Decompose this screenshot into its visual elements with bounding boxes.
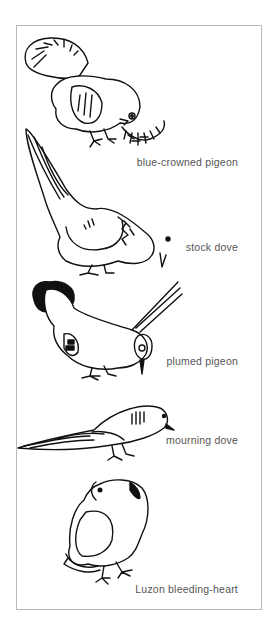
mourning-dove-drawing — [14, 400, 174, 465]
bird-label: mourning dove — [166, 434, 238, 446]
stock-dove-drawing — [22, 125, 172, 275]
plumed-pigeon-drawing — [28, 278, 188, 383]
bird-label: stock dove — [186, 241, 238, 253]
luzon-bleeding-heart-drawing — [60, 478, 160, 588]
bird-label: plumed pigeon — [167, 355, 239, 367]
bird-label: Luzon bleeding-heart — [135, 583, 238, 595]
